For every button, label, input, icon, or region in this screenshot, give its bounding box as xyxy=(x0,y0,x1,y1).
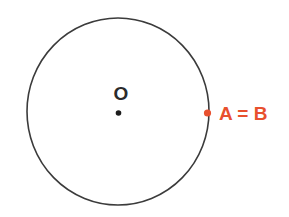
center-label: O xyxy=(114,83,129,104)
circle-diagram: O A = B xyxy=(0,0,289,217)
point-a-dot xyxy=(204,109,211,116)
geometry-figure: O A = B xyxy=(0,0,289,217)
point-a-label: A = B xyxy=(219,103,267,124)
center-point-dot xyxy=(116,110,122,116)
